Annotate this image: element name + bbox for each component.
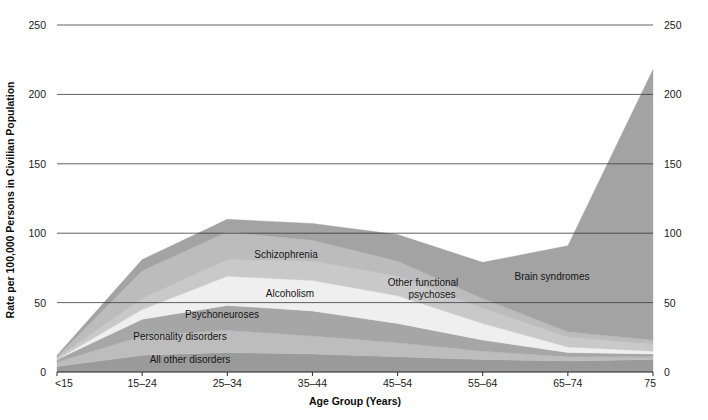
stacked-area-chart: 050100150200250 050100150200250 <1515–24… xyxy=(0,0,708,420)
y-tick-label-right-50: 50 xyxy=(664,297,676,309)
annotation-all-other-disorders: All other disorders xyxy=(150,354,231,365)
x-tick-label-4: 45–54 xyxy=(383,377,412,389)
x-tick-label-0: <15 xyxy=(55,377,73,389)
y-tick-label-left-200: 200 xyxy=(28,88,46,100)
chart-canvas: 050100150200250 050100150200250 <1515–24… xyxy=(0,0,708,420)
annotation-personality-disorders: Personality disorders xyxy=(133,331,226,342)
y-tick-label-right-150: 150 xyxy=(664,158,682,170)
annotation-schizophrenia: Schizophrenia xyxy=(254,249,318,260)
y-tick-label-left-150: 150 xyxy=(28,158,46,170)
y-tick-label-right-100: 100 xyxy=(664,227,682,239)
x-tick-label-6: 65–74 xyxy=(553,377,582,389)
x-tick-label-2: 25–34 xyxy=(213,377,242,389)
annotation-psychoneuroses: Psychoneuroses xyxy=(185,309,259,320)
y-tick-label-left-50: 50 xyxy=(34,297,46,309)
annotation-other-functional-psychoses-line2: psychoses xyxy=(408,289,455,300)
x-tick-label-1: 15–24 xyxy=(128,377,157,389)
y-tick-label-left-250: 250 xyxy=(28,19,46,31)
x-tick-label-5: 55–64 xyxy=(468,377,497,389)
y-tick-label-right-250: 250 xyxy=(664,19,682,31)
y-tick-label-left-0: 0 xyxy=(40,366,46,378)
annotation-brain-syndromes: Brain syndromes xyxy=(514,271,589,282)
y-axis-title: Rate per 100,000 Persons in Civilian Pop… xyxy=(4,82,16,319)
x-tick-label-7: 75 xyxy=(644,377,656,389)
x-axis-title: Age Group (Years) xyxy=(309,395,401,407)
annotation-other-functional-psychoses-line1: Other functional xyxy=(388,277,459,288)
x-tick-label-3: 35–44 xyxy=(298,377,327,389)
y-tick-label-left-100: 100 xyxy=(28,227,46,239)
annotation-alcoholism: Alcoholism xyxy=(266,288,314,299)
y-tick-label-right-200: 200 xyxy=(664,88,682,100)
y-tick-label-right-0: 0 xyxy=(664,366,670,378)
